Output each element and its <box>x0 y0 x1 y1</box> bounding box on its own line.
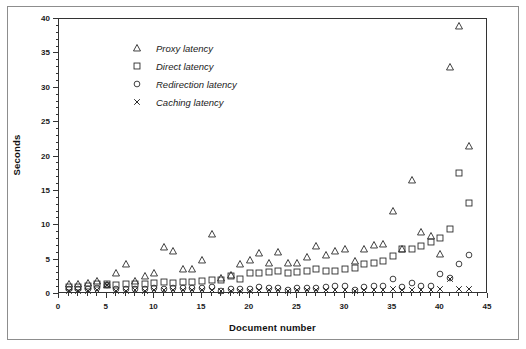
x-tick-minor <box>382 293 383 296</box>
data-point <box>255 283 264 292</box>
data-point <box>331 282 340 291</box>
data-point <box>464 250 473 259</box>
y-tick-label: 5 <box>32 254 50 263</box>
data-point <box>407 279 416 288</box>
x-tick-label: 30 <box>340 302 349 311</box>
x-tick-minor <box>163 293 164 296</box>
x-tick-label: 5 <box>103 302 107 311</box>
data-point <box>445 225 454 234</box>
x-tick-label: 25 <box>292 302 301 311</box>
x-tick-minor <box>87 293 88 296</box>
data-point <box>417 241 426 250</box>
legend-item-label: Direct latency <box>156 61 214 72</box>
plot-area <box>58 18 487 293</box>
data-point <box>226 285 235 294</box>
x-tick-minor <box>277 293 278 296</box>
data-point <box>255 248 264 257</box>
data-point <box>140 284 149 293</box>
x-tick-label: 45 <box>483 302 492 311</box>
x-tick-major <box>296 293 297 298</box>
data-point <box>245 269 254 278</box>
x-tick-minor <box>411 293 412 296</box>
data-point <box>274 267 283 276</box>
data-point <box>93 280 102 289</box>
data-point <box>350 257 359 266</box>
data-point <box>131 276 140 285</box>
data-point <box>264 259 273 268</box>
data-point <box>398 244 407 253</box>
y-tick-label: 0 <box>32 289 50 298</box>
data-point <box>74 285 83 294</box>
x-tick-minor <box>363 293 364 296</box>
data-point <box>455 169 464 178</box>
data-point <box>464 198 473 207</box>
data-point <box>112 268 121 277</box>
x-tick-label: 0 <box>56 302 60 311</box>
data-point <box>436 285 445 294</box>
x-tick-major <box>249 293 250 298</box>
x-tick-minor <box>420 293 421 296</box>
data-point <box>302 266 311 275</box>
data-point <box>388 252 397 261</box>
x-tick-minor <box>230 293 231 296</box>
data-point <box>341 282 350 291</box>
triangle-icon <box>128 42 146 54</box>
x-tick-major <box>58 293 59 298</box>
data-point <box>445 274 454 283</box>
data-point <box>131 284 140 293</box>
data-point <box>121 284 130 293</box>
x-tick-minor <box>144 293 145 296</box>
data-point <box>150 269 159 278</box>
legend-item-label: Redirection latency <box>156 79 237 90</box>
data-point <box>245 255 254 264</box>
data-point <box>464 284 473 293</box>
data-point <box>379 257 388 266</box>
y-axis-label: Seconds <box>11 135 22 176</box>
y-tick-label: 30 <box>32 82 50 91</box>
x-tick-major <box>392 293 393 298</box>
data-point <box>283 259 292 268</box>
x-tick-minor <box>468 293 469 296</box>
data-point <box>436 250 445 259</box>
x-tick-minor <box>268 293 269 296</box>
data-point <box>426 238 435 247</box>
x-tick-major <box>439 293 440 298</box>
data-point <box>102 281 111 290</box>
data-point <box>455 284 464 293</box>
x-tick-minor <box>306 293 307 296</box>
data-point <box>455 259 464 268</box>
data-point <box>407 175 416 184</box>
x-tick-minor <box>334 293 335 296</box>
data-point <box>388 285 397 294</box>
data-point <box>93 276 102 285</box>
data-point <box>236 259 245 268</box>
data-point <box>264 283 273 292</box>
data-point <box>436 270 445 279</box>
data-point <box>236 274 245 283</box>
data-point <box>388 206 397 215</box>
data-point <box>369 259 378 268</box>
circle-icon <box>128 78 146 90</box>
x-tick-minor <box>373 293 374 296</box>
data-point <box>121 280 130 289</box>
x-tick-minor <box>258 293 259 296</box>
data-point <box>207 283 216 292</box>
data-point <box>293 283 302 292</box>
legend: Proxy latencyDirect latencyRedirection l… <box>128 42 237 108</box>
data-point <box>341 245 350 254</box>
data-point <box>293 259 302 268</box>
legend-item: Caching latency <box>128 96 237 108</box>
data-point <box>341 265 350 274</box>
data-point <box>464 141 473 150</box>
data-point <box>217 274 226 283</box>
data-point <box>274 248 283 257</box>
data-point <box>379 281 388 290</box>
x-tick-minor <box>287 293 288 296</box>
data-point <box>369 282 378 291</box>
data-point <box>445 274 454 283</box>
x-tick-major <box>487 293 488 298</box>
x-tick-minor <box>125 293 126 296</box>
cross-icon <box>128 96 146 108</box>
data-point <box>321 283 330 292</box>
data-point <box>64 285 73 294</box>
